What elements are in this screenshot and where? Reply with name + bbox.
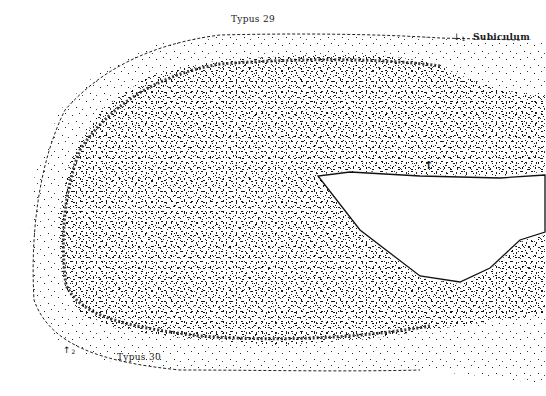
- marker-inner: ↑: [424, 159, 433, 172]
- arrow-up-icon: ↑: [424, 159, 433, 172]
- label-typus-29: Typus 29: [231, 14, 275, 24]
- label-typus-30: Typus 30: [117, 352, 161, 362]
- label-subiculum: Subiculum: [473, 32, 530, 42]
- marker-2: ↑2: [63, 345, 75, 355]
- arrow-up-icon: ↑: [63, 345, 71, 355]
- arrow-down-icon: ↓: [453, 32, 461, 42]
- histology-section: [0, 0, 546, 396]
- marker-1: ↓1: [453, 32, 465, 42]
